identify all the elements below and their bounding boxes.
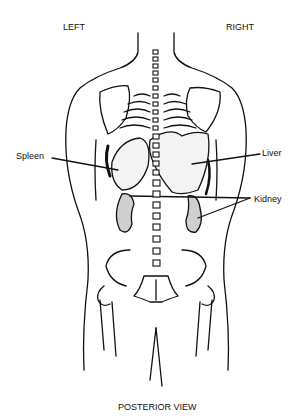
spleen-label: Spleen [16,151,44,161]
anatomy-illustration [0,0,308,416]
left-orientation-label: LEFT [63,22,85,32]
left-kidney [116,194,134,232]
right-scapula [186,88,220,133]
left-iliac [106,250,130,286]
right-kidney [186,196,201,233]
kidney-pointer-right [198,198,250,218]
right-orientation-label: RIGHT [226,22,254,32]
right-iliac [182,250,206,286]
spleen-shape [112,138,149,190]
view-caption: POSTERIOR VIEW [118,402,197,412]
kidney-label: Kidney [254,194,282,204]
liver-label: Liver [262,148,282,158]
